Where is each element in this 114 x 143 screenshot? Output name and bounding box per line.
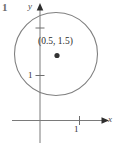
center-point-marker — [54, 53, 59, 58]
y-axis-label: y — [28, 1, 32, 11]
coordinate-plot-svg — [0, 0, 114, 143]
center-point-label: (0.5, 1.5) — [38, 36, 73, 47]
x-axis-label: x — [108, 114, 112, 124]
y-tick-label-1: 1 — [28, 70, 33, 80]
y-axis-arrowhead — [37, 3, 44, 11]
x-tick-label-1: 1 — [74, 124, 79, 134]
figure-container: 1 y x 1 1 (0.5, 1.5) — [0, 0, 114, 143]
